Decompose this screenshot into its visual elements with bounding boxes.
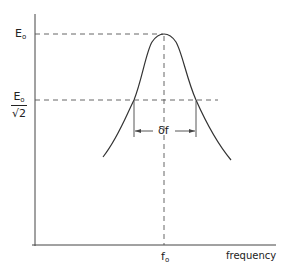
bandwidth-label: δf xyxy=(158,125,169,136)
half-power-label: Eo √2 xyxy=(11,90,27,120)
peak-label: Eo xyxy=(15,28,26,41)
peak-label-sub: o xyxy=(22,33,26,41)
peak-label-main: E xyxy=(15,27,22,40)
x-axis-label: frequency xyxy=(226,251,276,261)
f0-label-sub: o xyxy=(165,256,169,264)
half-power-numerator-sub: o xyxy=(20,96,24,104)
f0-tick-label: fo xyxy=(161,251,169,264)
half-power-denominator: √2 xyxy=(11,106,27,120)
arrowhead-left-icon xyxy=(135,129,141,133)
half-power-numerator: Eo xyxy=(11,90,27,106)
resonance-curve-diagram xyxy=(0,0,293,272)
arrowhead-right-icon xyxy=(189,129,195,133)
resonance-curve xyxy=(103,34,231,160)
